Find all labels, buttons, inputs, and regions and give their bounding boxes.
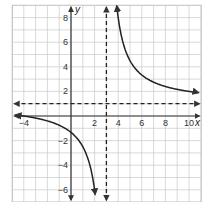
x-tick-label: −4	[19, 118, 29, 128]
y-axis-label: y	[74, 4, 81, 15]
x-tick-label: 4	[116, 118, 121, 128]
x-tick-label: 2	[92, 118, 97, 128]
hyperbola-graph: −42468108642−2−4−6xy	[0, 0, 206, 202]
y-tick-label: 4	[63, 62, 68, 72]
y-tick-label: 8	[63, 13, 68, 23]
y-tick-label: −4	[58, 160, 68, 170]
x-axis-label: x	[194, 117, 201, 128]
x-tick-label: 8	[163, 118, 168, 128]
right-branch-curve	[117, 6, 199, 93]
y-tick-label: −6	[58, 185, 68, 195]
x-tick-label: 6	[139, 118, 144, 128]
y-tick-label: 2	[63, 86, 68, 96]
tick-labels: −42468108642−2−4−6xy	[19, 4, 201, 195]
y-tick-label: 6	[63, 37, 68, 47]
y-tick-label: −2	[58, 136, 68, 146]
x-tick-label: 10	[184, 118, 194, 128]
